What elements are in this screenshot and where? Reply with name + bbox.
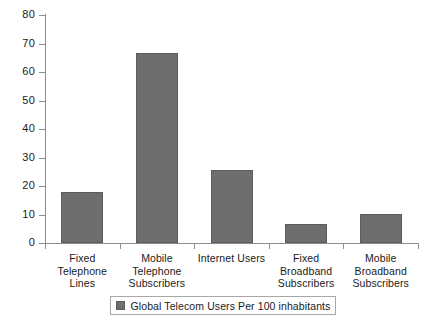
y-axis-tick: 20 (39, 186, 45, 187)
y-axis-tick: 10 (39, 215, 45, 216)
y-axis-tick-label: 70 (22, 37, 35, 49)
bar (61, 192, 103, 243)
y-axis-tick: 80 (39, 15, 45, 16)
y-axis-tick-label: 0 (29, 236, 35, 248)
x-axis-tick (343, 243, 344, 249)
chart-legend: Global Telecom Users Per 100 inhabitants (110, 296, 336, 315)
x-axis-tick (45, 243, 46, 249)
bar-chart-figure: 80706050403020100 Fixed Telephone LinesM… (0, 0, 428, 325)
y-axis-tick: 60 (39, 72, 45, 73)
bar (211, 170, 253, 243)
x-axis-category-label: Fixed Broadband Subscribers (269, 252, 344, 290)
x-axis-tick (120, 243, 121, 249)
y-axis-tick: 50 (39, 101, 45, 102)
bar (136, 53, 178, 243)
bar (285, 224, 327, 243)
x-axis-category-label: Mobile Telephone Subscribers (120, 252, 195, 290)
x-axis-category-label: Internet Users (194, 252, 269, 265)
x-axis-category-label: Mobile Broadband Subscribers (343, 252, 418, 290)
y-axis-tick: 70 (39, 44, 45, 45)
y-axis-tick-label: 50 (22, 94, 35, 106)
x-axis-category-label: Fixed Telephone Lines (45, 252, 120, 290)
x-axis-tick (269, 243, 270, 249)
x-axis-tick (194, 243, 195, 249)
y-axis-tick-label: 20 (22, 179, 35, 191)
legend-swatch-icon (116, 301, 125, 310)
bar (360, 214, 402, 243)
y-axis-tick: 40 (39, 129, 45, 130)
x-axis-line (45, 243, 418, 244)
legend-label: Global Telecom Users Per 100 inhabitants (131, 300, 331, 312)
x-axis-tick (418, 243, 419, 249)
y-axis-tick-label: 40 (22, 122, 35, 134)
y-axis-line (45, 14, 46, 244)
y-axis-tick-label: 60 (22, 65, 35, 77)
y-axis-tick: 30 (39, 158, 45, 159)
y-axis-tick-label: 80 (22, 8, 35, 20)
y-axis-tick-label: 30 (22, 151, 35, 163)
y-axis-tick-label: 10 (22, 208, 35, 220)
